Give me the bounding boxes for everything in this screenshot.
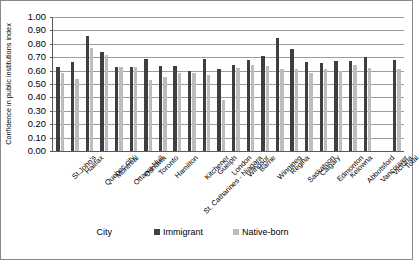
bar-immigrant xyxy=(290,49,293,151)
bar-native-born xyxy=(222,100,225,151)
bar-group xyxy=(199,17,214,151)
bar-native-born xyxy=(149,80,152,151)
bar-native-born xyxy=(251,65,254,151)
bar-native-born xyxy=(368,68,371,151)
bar-group xyxy=(302,17,317,151)
bar-immigrant xyxy=(71,62,74,151)
bar-group xyxy=(214,17,229,151)
bar-group xyxy=(229,17,244,151)
y-tick-label: 0.60 xyxy=(28,66,46,75)
bar-native-born xyxy=(295,69,298,151)
bar-immigrant xyxy=(130,67,133,151)
x-axis-tick-labels: St.John'sHalifaxQuebec cityMontrealOttaw… xyxy=(52,152,403,214)
bar-native-born xyxy=(90,48,93,151)
bar-native-born xyxy=(309,73,312,151)
bar-native-born xyxy=(119,67,122,151)
bar-immigrant xyxy=(56,67,59,151)
bar-group xyxy=(389,17,404,151)
y-tick-label: 1.00 xyxy=(28,12,46,21)
bar-immigrant xyxy=(115,67,118,151)
bar-group xyxy=(170,17,185,151)
bar-group xyxy=(360,17,375,151)
bar-native-born xyxy=(178,73,181,151)
bar-native-born xyxy=(324,69,327,151)
bar-native-born xyxy=(266,66,269,151)
plot-area xyxy=(52,17,404,152)
y-tick-label: 0.70 xyxy=(28,52,46,61)
bar-native-born xyxy=(192,73,195,151)
bar-group xyxy=(316,17,331,151)
bar-immigrant xyxy=(349,61,352,151)
y-tick-label: 0.40 xyxy=(28,92,46,101)
bar-native-born xyxy=(207,75,210,151)
bar-native-born xyxy=(236,68,239,151)
bar-native-born xyxy=(339,71,342,151)
bar-group xyxy=(331,17,346,151)
bar-immigrant xyxy=(144,59,147,151)
y-tick-label: 0.80 xyxy=(28,39,46,48)
x-axis-title: City xyxy=(96,227,112,237)
legend-label-immigrant: Immigrant xyxy=(163,227,203,237)
bar-group xyxy=(141,17,156,151)
legend-row: City Immigrant Native-born xyxy=(1,223,414,241)
bar-immigrant xyxy=(188,71,191,151)
bar-group xyxy=(53,17,68,151)
bar-immigrant xyxy=(232,65,235,151)
bar-group xyxy=(243,17,258,151)
bar-immigrant xyxy=(276,38,279,151)
bar-native-born xyxy=(105,55,108,151)
bar-immigrant xyxy=(217,69,220,151)
bar-immigrant xyxy=(334,61,337,151)
y-tick-label: 0.20 xyxy=(28,119,46,128)
y-tick-label: 0.50 xyxy=(28,79,46,88)
bar-immigrant xyxy=(364,57,367,151)
bar-native-born xyxy=(61,73,64,151)
bar-immigrant xyxy=(100,52,103,151)
legend-swatch-immigrant xyxy=(154,229,160,235)
bar-group xyxy=(97,17,112,151)
bar-immigrant xyxy=(393,60,396,151)
bar-native-born xyxy=(280,69,283,151)
bar-immigrant xyxy=(320,63,323,151)
bar-immigrant xyxy=(173,66,176,151)
y-tick-label: 0.90 xyxy=(28,25,46,34)
bar-immigrant xyxy=(159,66,162,151)
y-tick-label: 0.00 xyxy=(28,146,46,155)
bar-group xyxy=(287,17,302,151)
bar-group xyxy=(126,17,141,151)
bar-immigrant xyxy=(247,60,250,151)
bar-group xyxy=(112,17,127,151)
bar-group xyxy=(82,17,97,151)
y-axis-title: Confidence in public institutions index xyxy=(2,9,16,159)
bar-native-born xyxy=(397,69,400,151)
bar-immigrant xyxy=(261,56,264,151)
legend-label-native-born: Native-born xyxy=(242,227,289,237)
bar-native-born xyxy=(353,65,356,151)
y-tick-label: 0.30 xyxy=(28,106,46,115)
bar-group xyxy=(258,17,273,151)
bar-native-born xyxy=(134,67,137,151)
bar-series-container xyxy=(53,17,404,151)
bar-group xyxy=(346,17,361,151)
y-tick-label: 0.10 xyxy=(28,133,46,142)
bar-immigrant xyxy=(86,36,89,151)
bar-group xyxy=(375,17,390,151)
bar-native-born xyxy=(75,79,78,151)
bar-group xyxy=(68,17,83,151)
bar-native-born xyxy=(163,77,166,151)
legend-item-native-born: Native-born xyxy=(233,227,289,237)
bar-group xyxy=(185,17,200,151)
bar-group xyxy=(272,17,287,151)
bar-immigrant xyxy=(305,62,308,151)
bar-group xyxy=(155,17,170,151)
legend-swatch-native-born xyxy=(233,229,239,235)
legend-item-immigrant: Immigrant xyxy=(154,227,203,237)
bar-immigrant xyxy=(203,59,206,151)
